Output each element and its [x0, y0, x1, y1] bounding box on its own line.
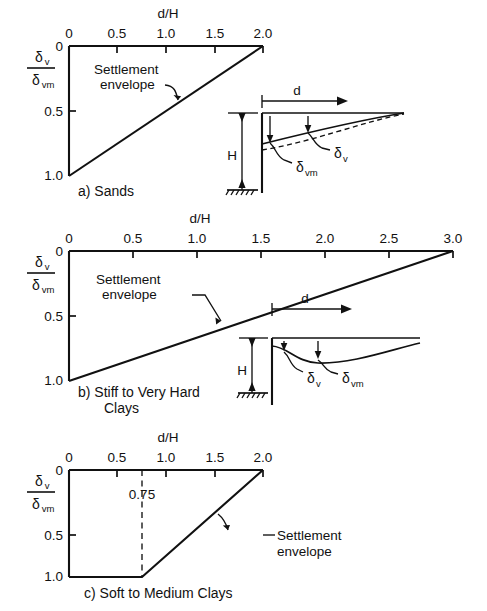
panel-caption-c: c) Soft to Medium Clays [84, 585, 233, 601]
settlement-envelope-label-b-line1: Settlement [96, 272, 161, 287]
panel-caption-a: a) Sands [78, 183, 134, 199]
y-axis-denominator-a: δ [32, 72, 40, 88]
H-arrow-down-a [238, 179, 245, 188]
d-label-a: d [293, 83, 301, 98]
delta-v-arrow-head-b [281, 343, 288, 351]
inset-diagram-sands: d H δ [226, 83, 404, 195]
y-axis-numerator-b: δ [35, 254, 43, 270]
settlement-envelope-label-b-line2: envelope [102, 287, 157, 302]
x-tick-label-b-6: 3.0 [444, 231, 463, 246]
panel-stiff-clays: d/H 0 0.5 1.0 1.5 2.0 2.5 3.0 δ v δ vm 0… [0, 205, 487, 410]
x-tick-label-c-0: 0 [65, 450, 73, 465]
y-axis-title-c: δ v δ vm [27, 473, 55, 514]
settlement-envelope-label-a-line1: Settlement [94, 62, 159, 77]
y-tick-label-a-0: 0 [55, 39, 63, 54]
y-axis-numerator-a: δ [35, 49, 43, 65]
settlement-envelope-label-c-line2: envelope [277, 544, 332, 559]
chart-sands: d/H 0 0.5 1.0 1.5 2.0 δ v δ vm 0 0.5 1.0 [0, 0, 487, 205]
settlement-envelope-c [69, 470, 263, 577]
d-label-b: d [301, 291, 309, 306]
x-axis-title-a: d/H [157, 6, 178, 21]
y-axis-numerator-sub-c: v [45, 480, 50, 491]
chart-soft-clays: d/H 0 0.5 1.0 1.5 2.0 δ v δ vm 0 0.5 1.0… [0, 410, 487, 611]
delta-vm-label-b: δ [342, 370, 350, 386]
x-tick-label-a-0: 0 [65, 26, 73, 41]
y-tick-label-c-0: 0 [55, 463, 63, 478]
y-axis-numerator-sub-b: v [45, 261, 50, 272]
y-axis-denominator-c: δ [32, 496, 40, 512]
panel-soft-clays: d/H 0 0.5 1.0 1.5 2.0 δ v δ vm 0 0.5 1.0… [0, 410, 487, 611]
y-tick-label-a-1: 0.5 [44, 104, 63, 119]
y-tick-label-b-0: 0 [55, 244, 63, 259]
y-tick-label-c-1: 0.5 [44, 528, 63, 543]
panel-sands: d/H 0 0.5 1.0 1.5 2.0 δ v δ vm 0 0.5 1.0 [0, 0, 487, 205]
x-tick-label-b-1: 0.5 [124, 231, 143, 246]
y-tick-label-b-1: 0.5 [44, 309, 63, 324]
H-label-b: H [237, 363, 247, 378]
x-axis-title-c: d/H [157, 430, 178, 445]
x-tick-label-c-3: 1.5 [206, 450, 225, 465]
inset-diagram-stiff-clays: d H δ v δ [237, 291, 420, 405]
panel-caption-b: b) Stiff to Very Hard [78, 384, 200, 400]
x-tick-label-b-5: 2.5 [380, 231, 399, 246]
d-arrow-head-a [337, 96, 348, 105]
delta-v-label-a: δ [334, 145, 342, 161]
settled-surface-b [272, 343, 420, 363]
delta-v-sub-a: v [343, 153, 348, 164]
settlement-envelope-b [69, 251, 453, 381]
delta-vm-arrow-head-b [315, 351, 322, 359]
settlement-envelope-arrow-c [223, 525, 230, 530]
x-tick-label-c-2: 1.0 [157, 450, 176, 465]
delta-v-label-b: δ [307, 370, 315, 386]
delta-vm-sub-b: vm [351, 378, 364, 389]
x-tick-label-a-1: 0.5 [108, 26, 127, 41]
H-arrow-down-b [248, 382, 255, 391]
y-axis-numerator-c: δ [35, 473, 43, 489]
settlement-envelope-label-a-line2: envelope [100, 77, 155, 92]
y-tick-label-a-2: 1.0 [44, 168, 63, 183]
H-label-a: H [227, 148, 237, 163]
y-axis-denominator-sub-a: vm [42, 79, 55, 90]
delta-vm-sub-a: vm [305, 167, 318, 178]
settled-surface-dashed-a [262, 114, 404, 150]
x-tick-label-c-1: 0.5 [108, 450, 127, 465]
y-axis-title-a: δ v δ vm [27, 49, 55, 90]
x-tick-label-b-3: 1.5 [252, 231, 271, 246]
x-tick-label-a-4: 2.0 [254, 26, 273, 41]
y-axis-denominator-sub-c: vm [42, 503, 55, 514]
x-tick-label-b-0: 0 [65, 231, 73, 246]
y-axis-title-b: δ v δ vm [27, 254, 55, 295]
reference-label-075-c: 0.75 [129, 487, 155, 502]
chart-stiff-clays: d/H 0 0.5 1.0 1.5 2.0 2.5 3.0 δ v δ vm 0… [0, 205, 487, 410]
y-axis-numerator-sub-a: v [45, 56, 50, 67]
y-axis-denominator-sub-b: vm [42, 284, 55, 295]
x-tick-label-a-3: 1.5 [206, 26, 225, 41]
x-axis-title-b: d/H [189, 211, 210, 226]
x-tick-label-a-2: 1.0 [157, 26, 176, 41]
settlement-envelope-label-c-line1: Settlement [277, 528, 342, 543]
y-axis-denominator-b: δ [32, 277, 40, 293]
H-arrow-up-b [248, 338, 255, 347]
y-tick-label-c-2: 1.0 [44, 569, 63, 584]
H-arrow-up-a [238, 113, 245, 122]
x-tick-label-b-2: 1.0 [188, 231, 207, 246]
settlement-envelope-leader-b [192, 295, 221, 321]
delta-vm-label-a: δ [296, 159, 304, 175]
settled-surface-a [262, 113, 404, 144]
d-arrow-head-b [341, 304, 352, 313]
x-tick-label-b-4: 2.0 [316, 231, 335, 246]
delta-v-sub-b: v [316, 378, 321, 389]
x-tick-label-c-4: 2.0 [254, 450, 273, 465]
delta-v-leader-a [308, 133, 330, 150]
y-tick-label-b-2: 1.0 [44, 373, 63, 388]
